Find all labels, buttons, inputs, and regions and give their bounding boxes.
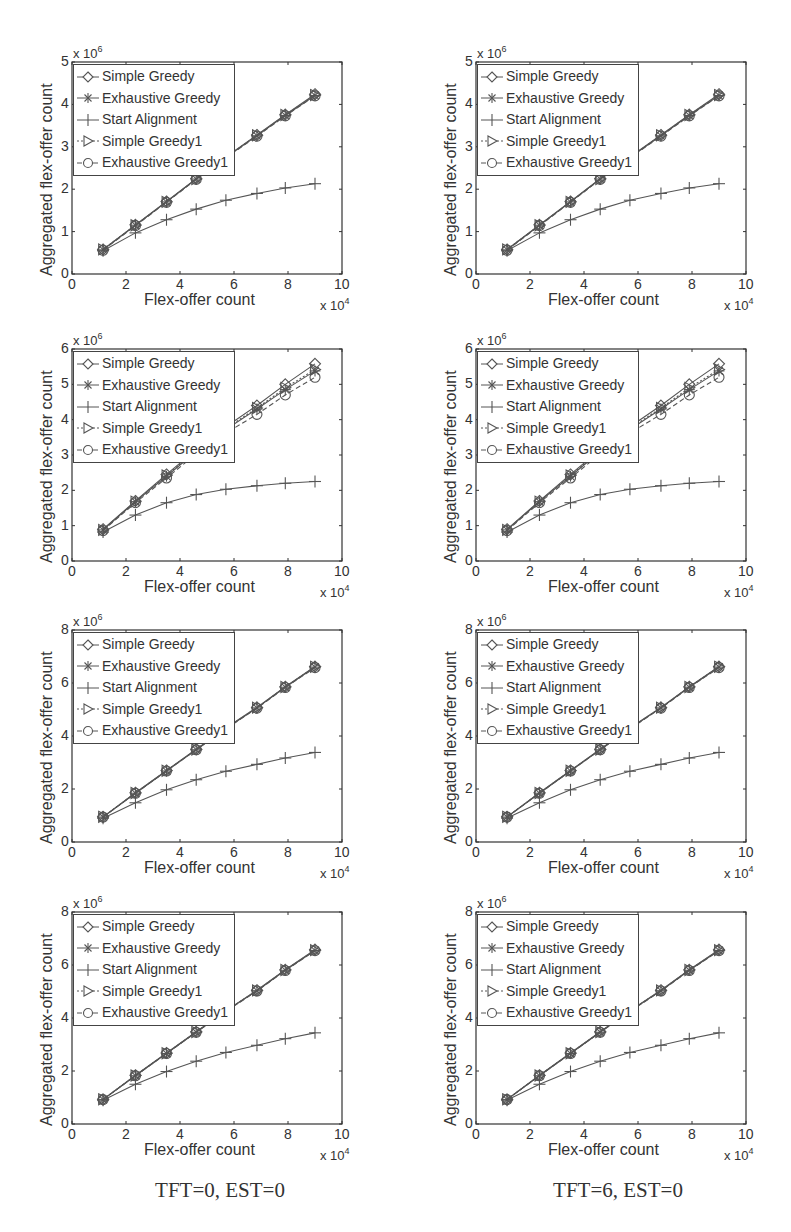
x-tick-label: 4: [580, 1126, 588, 1142]
x-tick-label: 6: [634, 1126, 642, 1142]
legend-item: Start Alignment: [480, 959, 632, 981]
y-axis-label: Aggregated flex-offer count: [442, 933, 460, 1126]
y-tick-label: 0: [465, 1115, 473, 1131]
x-tick-label: 2: [526, 1126, 534, 1142]
circle-marker-icon: [480, 1006, 504, 1020]
x-tick-label: 0: [472, 1126, 480, 1142]
legend-label: Simple Greedy: [506, 916, 599, 938]
legend-item: Exhaustive Greedy1: [480, 1002, 632, 1024]
legend-label: Start Alignment: [506, 959, 601, 981]
y-axis-multiplier: x 106: [477, 894, 507, 911]
y-tick-label: 2: [465, 1062, 473, 1078]
x-tick-label: 10: [738, 1126, 754, 1142]
legend-item: Simple Greedy: [480, 916, 632, 938]
legend-label: Exhaustive Greedy1: [506, 1002, 632, 1024]
chart-legend: Simple GreedyExhaustive GreedyStart Alig…: [477, 914, 639, 1026]
legend-label: Simple Greedy1: [506, 981, 606, 1003]
asterisk-marker-icon: [480, 941, 504, 955]
legend-label: Exhaustive Greedy: [506, 938, 624, 960]
y-tick-label: 8: [465, 903, 473, 919]
x-axis-label: Flex-offer count: [548, 1141, 659, 1159]
plus-marker-icon: [480, 963, 504, 977]
legend-item: Exhaustive Greedy: [480, 938, 632, 960]
caption-right: TFT=6, EST=0: [438, 1178, 791, 1203]
y-tick-label: 6: [465, 956, 473, 972]
x-axis-multiplier: x 104: [724, 1146, 754, 1163]
triangle-right-marker-icon: [480, 984, 504, 998]
y-tick-label: 4: [465, 1009, 473, 1025]
diamond-marker-icon: [480, 920, 504, 934]
legend-item: Simple Greedy1: [480, 981, 632, 1003]
chart-plot-area: [0, 0, 791, 1232]
x-tick-label: 8: [688, 1126, 696, 1142]
caption-left: TFT=0, EST=0: [40, 1178, 400, 1203]
